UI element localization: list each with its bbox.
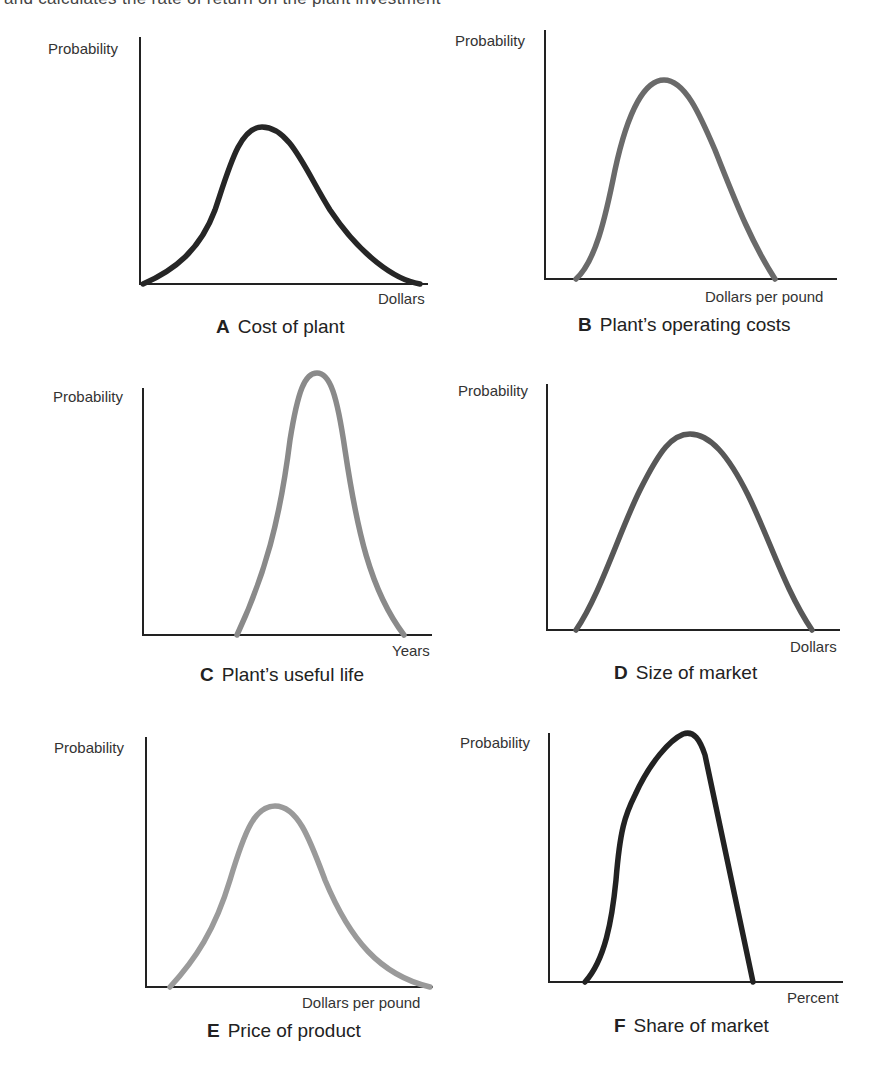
panel-c-axes [143, 388, 432, 635]
panel-d-letter: D [614, 662, 628, 683]
panel-e-y-axis-label: Probability [54, 739, 124, 756]
panel-f-y-axis-label: Probability [460, 734, 530, 751]
panel-e-distribution-curve [170, 806, 430, 987]
panel-d-x-axis-label: Dollars [790, 638, 837, 655]
panel-a-title: Cost of plant [238, 316, 345, 337]
curves-group [143, 80, 812, 987]
panel-b-letter: B [578, 314, 592, 335]
panel-a-axes [140, 37, 428, 284]
panel-f-title: Share of market [634, 1015, 769, 1036]
panel-f-caption: FShare of market [614, 1015, 769, 1037]
panel-c-caption: CPlant’s useful life [200, 664, 364, 686]
probability-distributions-figure [0, 0, 881, 1081]
panel-d-y-axis-label: Probability [458, 382, 528, 399]
panel-d-title: Size of market [636, 662, 757, 683]
panel-b-axes [545, 30, 837, 279]
axes-group [140, 30, 843, 987]
panel-d-axes [547, 384, 840, 630]
panel-b-y-axis-label: Probability [455, 32, 525, 49]
panel-a-x-axis-label: Dollars [378, 290, 425, 307]
panel-b-x-axis-label: Dollars per pound [705, 288, 823, 305]
panel-c-distribution-curve [237, 373, 404, 635]
panel-e-title: Price of product [228, 1020, 361, 1041]
panel-e-x-axis-label: Dollars per pound [302, 994, 420, 1011]
panel-c-x-axis-label: Years [392, 642, 430, 659]
panel-f-letter: F [614, 1015, 626, 1036]
panel-c-title: Plant’s useful life [222, 664, 364, 685]
panel-f-distribution-curve [585, 733, 753, 982]
panel-f-axes [549, 733, 843, 982]
panel-c-y-axis-label: Probability [53, 388, 123, 405]
panel-d-caption: DSize of market [614, 662, 757, 684]
panel-a-letter: A [216, 316, 230, 337]
panel-c-letter: C [200, 664, 214, 685]
panel-a-y-axis-label: Probability [48, 40, 118, 57]
panel-b-title: Plant’s operating costs [600, 314, 791, 335]
panel-b-caption: BPlant’s operating costs [578, 314, 791, 336]
panel-e-letter: E [207, 1020, 220, 1041]
panel-d-distribution-curve [576, 434, 812, 630]
panel-b-distribution-curve [576, 80, 775, 279]
panel-e-caption: EPrice of product [207, 1020, 361, 1042]
panel-e-axes [146, 737, 433, 987]
panel-a-caption: ACost of plant [216, 316, 344, 338]
panel-f-x-axis-label: Percent [787, 989, 839, 1006]
panel-a-distribution-curve [143, 127, 420, 284]
